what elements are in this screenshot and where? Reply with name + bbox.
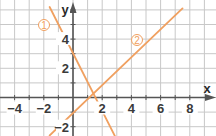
x-tick-label: 2	[99, 101, 106, 116]
x-tick-label: −4	[7, 101, 23, 116]
line-2-tag: 2	[134, 35, 140, 46]
y-tick-label: −2	[54, 120, 69, 135]
y-tick-label: 2	[62, 61, 69, 76]
x-tick-label: −2	[36, 101, 51, 116]
x-tick-label: 8	[186, 101, 193, 116]
line-1-tag: 1	[41, 20, 47, 31]
axes	[0, 2, 216, 136]
x-tick-label: 4	[128, 101, 136, 116]
y-tick-label: 4	[62, 32, 70, 47]
x-axis-label: x	[203, 81, 211, 96]
x-tick-label: 6	[157, 101, 164, 116]
coordinate-plot: 12 −4−22468−224xy	[0, 0, 216, 136]
y-axis-label: y	[61, 2, 69, 17]
grid-lines	[0, 0, 216, 136]
y-axis-arrow-icon	[70, 2, 77, 13]
